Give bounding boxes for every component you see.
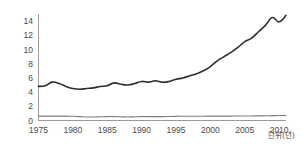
x-tick-1980: 1980 bbox=[63, 125, 82, 135]
x-axis-tick-labels: 19751980198519901995200020052010 bbox=[29, 125, 289, 135]
x-tick-1975: 1975 bbox=[29, 125, 48, 135]
x-tick-2000: 2000 bbox=[201, 125, 220, 135]
y-tick-4: 4 bbox=[28, 87, 33, 97]
plot-area: 02468101214 1975198019851990199520002005… bbox=[24, 14, 289, 135]
x-tick-1995: 1995 bbox=[167, 125, 186, 135]
data-series-group bbox=[39, 15, 287, 117]
chart-canvas: 02468101214 1975198019851990199520002005… bbox=[0, 0, 308, 148]
y-tick-8: 8 bbox=[28, 59, 33, 69]
x-axis-unit-label: 단위(년) bbox=[268, 130, 295, 140]
x-tick-2005: 2005 bbox=[235, 125, 254, 135]
y-axis-tick-labels: 02468101214 bbox=[24, 16, 34, 125]
y-tick-6: 6 bbox=[28, 73, 33, 83]
y-tick-2: 2 bbox=[28, 101, 33, 111]
line-series-lower bbox=[39, 116, 287, 117]
x-tick-1990: 1990 bbox=[132, 125, 151, 135]
y-tick-10: 10 bbox=[24, 45, 34, 55]
y-tick-12: 12 bbox=[24, 30, 34, 40]
x-tick-1985: 1985 bbox=[98, 125, 117, 135]
line-chart: 02468101214 1975198019851990199520002005… bbox=[0, 0, 308, 148]
line-series-upper bbox=[39, 15, 287, 89]
y-tick-14: 14 bbox=[24, 16, 34, 26]
